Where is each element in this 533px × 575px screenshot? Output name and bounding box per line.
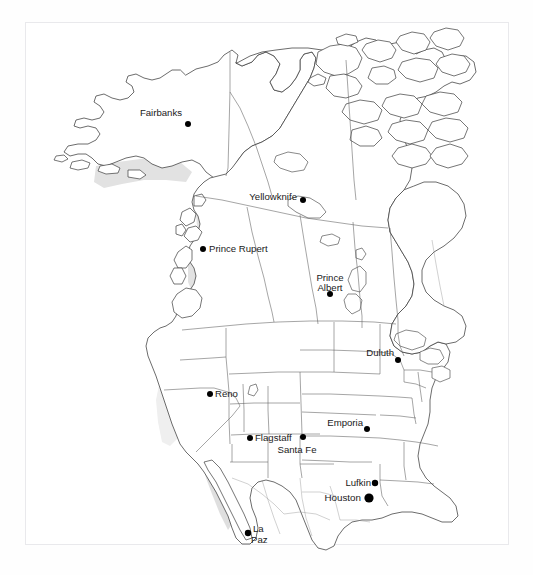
city-dot-lufkin[interactable] bbox=[372, 480, 378, 486]
city-label-fairbanks: Fairbanks bbox=[140, 107, 182, 118]
city-label-yellowknife: Yellowknife bbox=[249, 191, 297, 202]
north-america-map[interactable]: Fairbanks Yellowknife Prince Rupert Prin… bbox=[0, 0, 533, 575]
city-prince-rupert[interactable]: Prince Rupert bbox=[200, 243, 268, 254]
city-label-reno: Reno bbox=[215, 388, 238, 399]
map-figure: Fairbanks Yellowknife Prince Rupert Prin… bbox=[0, 0, 533, 575]
city-label-duluth: Duluth bbox=[366, 347, 394, 358]
city-dot-emporia[interactable] bbox=[364, 426, 370, 432]
city-label-prince-rupert: Prince Rupert bbox=[209, 243, 268, 254]
city-label-emporia: Emporia bbox=[327, 417, 363, 428]
city-dot-fairbanks[interactable] bbox=[185, 121, 191, 127]
city-label-la-paz-line1: La bbox=[253, 523, 264, 534]
city-dot-yellowknife[interactable] bbox=[300, 197, 306, 203]
city-dot-flagstaff[interactable] bbox=[247, 435, 253, 441]
city-dot-duluth[interactable] bbox=[395, 357, 401, 363]
city-label-santa-fe: Santa Fe bbox=[278, 444, 317, 455]
city-label-prince-albert-line2: Albert bbox=[317, 282, 342, 293]
city-label-lufkin: Lufkin bbox=[345, 477, 371, 488]
city-label-flagstaff: Flagstaff bbox=[255, 432, 292, 443]
city-dot-houston[interactable] bbox=[364, 493, 373, 502]
city-dot-prince-rupert[interactable] bbox=[200, 246, 206, 252]
city-label-houston: Houston bbox=[325, 492, 362, 503]
land-outlines bbox=[54, 28, 476, 550]
city-dot-reno[interactable] bbox=[207, 391, 213, 397]
city-dot-santa-fe[interactable] bbox=[300, 434, 306, 440]
city-label-la-paz-line2: Paz bbox=[251, 534, 268, 545]
